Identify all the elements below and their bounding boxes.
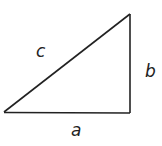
horizontal-leg-line bbox=[4, 113, 130, 114]
triangle-figure: c b a bbox=[0, 0, 162, 146]
label-b: b bbox=[145, 61, 156, 81]
label-c: c bbox=[36, 41, 46, 61]
triangle-diagram: c b a bbox=[0, 0, 162, 146]
hypotenuse-line bbox=[4, 14, 130, 112]
label-a: a bbox=[71, 120, 81, 140]
